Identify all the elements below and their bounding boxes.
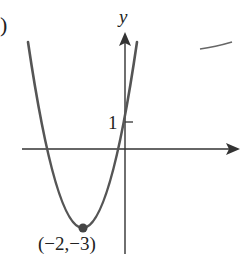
- parabola-curve: [28, 42, 137, 228]
- y-tick-label: 1: [108, 112, 118, 133]
- vertex-point: [79, 224, 88, 233]
- panel-label: ): [0, 12, 7, 37]
- vertex-label: (−2,−3): [38, 233, 96, 254]
- y-tick-1: 1: [108, 112, 133, 133]
- stray-mark: [200, 42, 232, 49]
- y-axis-label: y: [117, 6, 128, 27]
- y-axis: y: [117, 6, 131, 254]
- x-axis: [22, 143, 240, 155]
- parabola-graph: ) y 1 (−2,−3): [0, 0, 245, 254]
